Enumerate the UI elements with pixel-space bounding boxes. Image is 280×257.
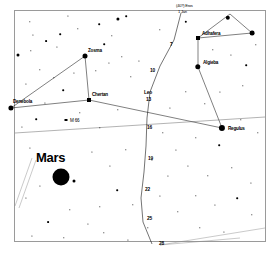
path-date-marker: 22 bbox=[145, 187, 150, 192]
path-date-marker: 16 bbox=[147, 125, 152, 130]
star-chart: Mars ZosmaChertanDenebolaAdhaferaAlgieba… bbox=[0, 0, 280, 257]
star-label-denebola: Denebola bbox=[13, 99, 32, 104]
path-date-marker: 13 bbox=[146, 97, 151, 102]
path-date-marker: 28 bbox=[159, 241, 164, 246]
mars-disc bbox=[53, 169, 70, 186]
label-layer: Mars ZosmaChertanDenebolaAdhaferaAlgieba… bbox=[0, 0, 280, 257]
star-label-regulus: Regulus bbox=[228, 126, 245, 131]
star-label-zosma: Zosma bbox=[88, 48, 102, 53]
path-date-marker: 25 bbox=[147, 216, 152, 221]
star-label-algieba: Algieba bbox=[203, 60, 218, 65]
path-date-marker: 19 bbox=[148, 156, 153, 161]
path-date-marker: 10 bbox=[150, 68, 155, 73]
mars-label: Mars bbox=[36, 150, 65, 165]
chart-annotation: (40?) Eros bbox=[176, 3, 193, 8]
path-date-marker: 7 bbox=[170, 42, 172, 47]
deep-sky-object-label: M 66 bbox=[70, 118, 79, 123]
path-date-marker: Leo bbox=[144, 90, 152, 95]
star-label-adhafera: Adhafera bbox=[202, 31, 220, 36]
chart-annotation: 1 Jan bbox=[178, 9, 187, 14]
star-label-chertan: Chertan bbox=[92, 92, 108, 97]
mars-companion-dot bbox=[73, 180, 76, 183]
